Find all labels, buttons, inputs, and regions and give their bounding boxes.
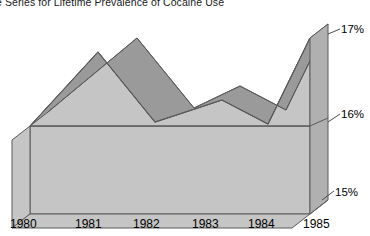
area-base-front-face xyxy=(30,126,310,214)
x-axis-label-1985: 1985 xyxy=(303,217,330,231)
y-axis-label-17-percent: 17% xyxy=(341,23,364,35)
y-axis-label-16-percent: 16% xyxy=(341,108,364,120)
leader-line-17-percent xyxy=(328,29,340,34)
x-axis-label-1984: 1984 xyxy=(248,217,275,231)
x-axis-label-1982: 1982 xyxy=(133,217,160,231)
chart-plot-area: 17% 16% 15% 1980 1981 1982 1983 1984 198… xyxy=(0,0,370,236)
x-axis-label-1983: 1983 xyxy=(192,217,219,231)
area-base-left-bevel xyxy=(12,126,30,228)
x-axis-label-1981: 1981 xyxy=(75,217,102,231)
x-axis-label-1980: 1980 xyxy=(10,217,37,231)
y-axis-label-15-percent: 15% xyxy=(335,186,358,198)
chart-container: ne Series for Lifetime Prevalence of Coc… xyxy=(0,0,370,236)
leader-line-16-percent xyxy=(328,114,340,122)
